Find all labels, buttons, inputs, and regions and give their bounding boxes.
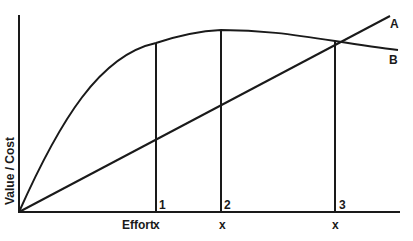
tick-1-x: x (153, 219, 160, 231)
line-b-label: B (389, 54, 398, 66)
line-a-label: A (390, 18, 399, 30)
tick-2-x: x (219, 219, 226, 231)
marker-2-label: 2 (224, 199, 231, 211)
marker-1-label: 1 (159, 199, 166, 211)
x-axis-label: Effort (122, 219, 154, 231)
marker-3-label: 3 (339, 199, 346, 211)
curve-b (19, 30, 398, 212)
chart-canvas (0, 0, 413, 241)
y-axis-label: Value / Cost (3, 131, 17, 211)
tick-3-x: x (332, 219, 339, 231)
